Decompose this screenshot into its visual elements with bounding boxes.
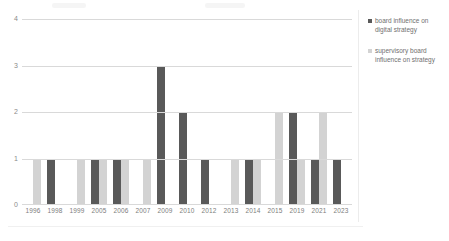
bar bbox=[77, 159, 85, 206]
x-axis-tick-label: 2005 bbox=[88, 207, 110, 221]
bar bbox=[201, 159, 209, 206]
bar bbox=[121, 159, 129, 206]
x-axis-tick-label: 2013 bbox=[220, 207, 242, 221]
x-axis-tick-label: 2009 bbox=[154, 207, 176, 221]
plot-area bbox=[22, 19, 352, 205]
x-axis-tick-label: 1998 bbox=[44, 207, 66, 221]
legend-entry[interactable]: board influence on digital strategy bbox=[368, 17, 446, 34]
scan-artifact-left bbox=[52, 3, 86, 8]
x-axis-tick-label: 2023 bbox=[330, 207, 352, 221]
y-axis-tick-label: 0 bbox=[2, 201, 18, 208]
bar bbox=[297, 159, 305, 206]
bar bbox=[157, 66, 165, 206]
x-axis-tick-label: 2012 bbox=[198, 207, 220, 221]
bar bbox=[143, 159, 151, 206]
gridline bbox=[22, 66, 352, 67]
y-axis: 01234 bbox=[0, 19, 18, 205]
bar bbox=[33, 159, 41, 206]
bar bbox=[333, 159, 341, 206]
bar bbox=[245, 159, 253, 206]
gridline bbox=[22, 112, 352, 113]
bar bbox=[99, 159, 107, 206]
x-axis-tick-label: 1996 bbox=[22, 207, 44, 221]
x-axis-tick-label: 2019 bbox=[286, 207, 308, 221]
bar bbox=[91, 159, 99, 206]
gridline bbox=[22, 159, 352, 160]
x-axis-tick-label: 1999 bbox=[66, 207, 88, 221]
legend-swatch-icon bbox=[368, 49, 372, 53]
x-axis-line bbox=[22, 204, 352, 205]
x-axis-tick-label: 2021 bbox=[308, 207, 330, 221]
x-axis-tick-label: 2014 bbox=[242, 207, 264, 221]
x-axis-tick-label: 2007 bbox=[132, 207, 154, 221]
y-axis-tick-label: 3 bbox=[2, 62, 18, 69]
bar bbox=[311, 159, 319, 206]
bar bbox=[253, 159, 261, 206]
legend-entry[interactable]: supervisory board influence on strategy bbox=[368, 47, 446, 64]
y-axis-tick-label: 2 bbox=[2, 108, 18, 115]
bar-chart: 01234 1996199819992005200620072009201020… bbox=[0, 0, 449, 241]
legend: board influence on digital strategysuper… bbox=[368, 17, 446, 77]
gridline bbox=[22, 19, 352, 20]
page-edge bbox=[8, 226, 363, 227]
y-axis-tick-label: 4 bbox=[2, 15, 18, 22]
legend-label: supervisory board influence on strategy bbox=[375, 47, 446, 64]
x-axis-tick-label: 2006 bbox=[110, 207, 132, 221]
legend-swatch-icon bbox=[368, 19, 372, 23]
x-axis: 1996199819992005200620072009201020122013… bbox=[22, 207, 352, 221]
bar bbox=[47, 159, 55, 206]
x-axis-tick-label: 2015 bbox=[264, 207, 286, 221]
scan-artifact-right bbox=[205, 3, 245, 8]
y-axis-tick-label: 1 bbox=[2, 155, 18, 162]
bar bbox=[231, 159, 239, 206]
plot-border bbox=[358, 10, 359, 222]
legend-label: board influence on digital strategy bbox=[375, 17, 446, 34]
x-axis-tick-label: 2010 bbox=[176, 207, 198, 221]
bar bbox=[113, 159, 121, 206]
